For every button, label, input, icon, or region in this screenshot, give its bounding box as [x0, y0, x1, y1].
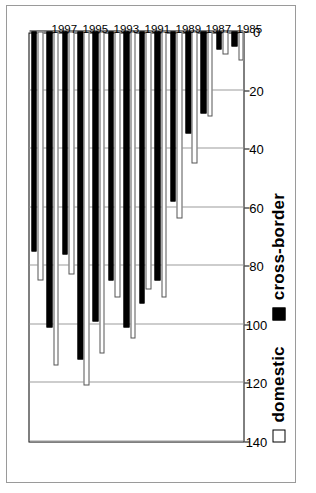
- value-tickmark-40: [245, 148, 250, 149]
- bar-group: [153, 33, 168, 441]
- bar-domestic: [130, 31, 136, 339]
- bar-domestic: [99, 31, 105, 353]
- value-tickmark-100: [245, 324, 250, 325]
- bar-cross-border: [155, 31, 161, 280]
- bar-group: [184, 33, 199, 441]
- bar-cross-border: [201, 31, 207, 113]
- legend-item-domestic: domestic: [269, 346, 289, 442]
- bar-domestic: [84, 31, 90, 385]
- bar-cross-border: [31, 31, 37, 251]
- bar-group: [168, 33, 183, 441]
- value-tickmark-60: [245, 207, 250, 208]
- bar-cross-border: [93, 31, 99, 321]
- legend-label-domestic: domestic: [269, 346, 289, 422]
- bar-cross-border: [124, 31, 130, 327]
- bar-domestic: [207, 31, 213, 116]
- bar-cross-border: [186, 31, 192, 134]
- rotated-chart-stage: 140120100806040200 199719951993199119891…: [21, 12, 296, 482]
- value-tickmark-140: [245, 441, 250, 442]
- plot-area: [29, 32, 245, 442]
- bar-group: [107, 33, 122, 441]
- bar-cross-border: [108, 31, 114, 280]
- value-tickmark-20: [245, 90, 250, 91]
- bar-group: [45, 33, 60, 441]
- value-tickmark-80: [245, 265, 250, 266]
- chart-page: 140120100806040200 199719951993199119891…: [0, 0, 316, 493]
- bar-domestic: [192, 31, 198, 163]
- chart-legend: cross-border domestic: [264, 32, 294, 442]
- bar-group: [91, 33, 106, 441]
- legend-label-cross-border: cross-border: [269, 193, 289, 300]
- bar-chart: 140120100806040200 199719951993199119891…: [21, 12, 296, 482]
- bar-cross-border: [78, 31, 84, 359]
- hollow-square-icon: [272, 429, 285, 442]
- bar-domestic: [146, 31, 152, 289]
- bar-cross-border: [47, 31, 53, 327]
- bar-cross-border: [139, 31, 145, 303]
- bar-group: [30, 33, 45, 441]
- bar-series-container: [30, 33, 244, 441]
- bar-group: [138, 33, 153, 441]
- value-tickmark-120: [245, 382, 250, 383]
- bar-domestic: [53, 31, 59, 365]
- bar-domestic: [38, 31, 44, 280]
- bar-group: [60, 33, 75, 441]
- bar-domestic: [115, 31, 121, 298]
- bar-group: [122, 33, 137, 441]
- bar-cross-border: [170, 31, 176, 201]
- bar-domestic: [68, 31, 74, 274]
- bar-domestic: [161, 31, 167, 298]
- filled-square-icon: [272, 307, 285, 320]
- legend-item-cross-border: cross-border: [269, 193, 289, 320]
- bar-group: [199, 33, 214, 441]
- bar-domestic: [176, 31, 182, 218]
- bar-cross-border: [62, 31, 68, 254]
- bar-group: [76, 33, 91, 441]
